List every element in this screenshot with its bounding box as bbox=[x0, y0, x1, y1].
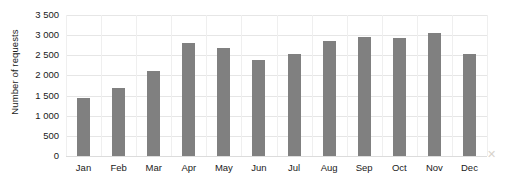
bar-sep bbox=[358, 37, 371, 156]
bar-dec bbox=[463, 54, 476, 156]
bar-chart: Number of requests 05001 0001 5002 0002 … bbox=[0, 0, 510, 194]
bar-may bbox=[217, 48, 230, 156]
y-axis-tick-label: 0 bbox=[0, 151, 59, 161]
y-axis-tick-label: 3 500 bbox=[0, 10, 59, 20]
category-separator bbox=[241, 15, 242, 156]
y-axis-tick-label: 2 500 bbox=[0, 50, 59, 60]
category-separator bbox=[171, 15, 172, 156]
x-axis-tick-label: Jan bbox=[64, 162, 104, 173]
y-axis-tick-label: 500 bbox=[0, 131, 59, 141]
plot-area bbox=[66, 15, 487, 156]
bar-oct bbox=[393, 38, 406, 156]
y-axis-tick-label: 1 000 bbox=[0, 111, 59, 121]
bar-feb bbox=[112, 88, 125, 156]
category-separator bbox=[101, 15, 102, 156]
category-separator bbox=[452, 15, 453, 156]
x-axis-tick-label: Jul bbox=[274, 162, 314, 173]
y-axis-tick-label: 3 000 bbox=[0, 30, 59, 40]
bar-nov bbox=[428, 33, 441, 156]
x-axis-tick-label: Oct bbox=[379, 162, 419, 173]
x-axis-tick-label: Nov bbox=[414, 162, 454, 173]
category-separator bbox=[136, 15, 137, 156]
category-separator bbox=[277, 15, 278, 156]
scan-artifact-mark: ✕ bbox=[487, 148, 496, 160]
category-separator bbox=[487, 15, 488, 156]
bar-jul bbox=[288, 54, 301, 156]
category-separator bbox=[312, 15, 313, 156]
bar-jun bbox=[252, 60, 265, 156]
gridline bbox=[66, 156, 487, 157]
x-axis-tick-label: Aug bbox=[309, 162, 349, 173]
bar-jan bbox=[77, 98, 90, 156]
category-separator bbox=[347, 15, 348, 156]
y-axis-tick-label: 1 500 bbox=[0, 91, 59, 101]
bar-apr bbox=[182, 43, 195, 156]
x-axis-tick-label: Mar bbox=[134, 162, 174, 173]
x-axis-tick-label: Feb bbox=[99, 162, 139, 173]
category-separator bbox=[382, 15, 383, 156]
x-axis-tick-label: Sep bbox=[344, 162, 384, 173]
category-separator bbox=[66, 15, 67, 156]
y-axis-tick-label: 2 000 bbox=[0, 70, 59, 80]
x-axis-tick-label: May bbox=[204, 162, 244, 173]
x-axis-tick-label: Jun bbox=[239, 162, 279, 173]
bar-aug bbox=[323, 41, 336, 156]
x-axis-tick-label: Apr bbox=[169, 162, 209, 173]
category-separator bbox=[206, 15, 207, 156]
x-axis-tick-label: Dec bbox=[449, 162, 489, 173]
bar-mar bbox=[147, 71, 160, 156]
category-separator bbox=[417, 15, 418, 156]
